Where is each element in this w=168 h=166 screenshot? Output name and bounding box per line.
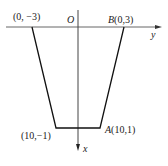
point-label-b: B(0,3) — [108, 14, 133, 26]
y-axis-arrow-icon — [155, 25, 162, 29]
y-axis-label: y — [150, 29, 156, 40]
origin-label: O — [67, 14, 74, 25]
x-axis-label: x — [82, 143, 88, 154]
point-label-left-top: (0, −3) — [13, 11, 40, 23]
x-axis-arrow-icon — [76, 144, 80, 151]
trapezoid-coordinate-diagram: O (0, −3) B(0,3) y (10,−1) A(10,1) x — [0, 0, 168, 166]
point-label-left-bottom: (10,−1) — [21, 130, 51, 142]
point-label-a: A(10,1) — [104, 124, 135, 136]
